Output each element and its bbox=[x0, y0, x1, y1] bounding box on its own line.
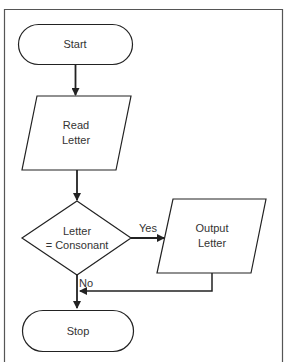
start-label: Start bbox=[25, 37, 125, 51]
no-label: No bbox=[79, 276, 97, 290]
decision-label-line1: Letter bbox=[27, 224, 127, 238]
read-label-line1: Read bbox=[26, 118, 126, 132]
yes-label: Yes bbox=[135, 221, 161, 235]
read-label-line2: Letter bbox=[26, 133, 126, 147]
edge-output-merge bbox=[80, 273, 212, 291]
output-label-line2: Letter bbox=[162, 236, 262, 250]
decision-label-line2: = Consonant bbox=[27, 238, 127, 252]
output-label-line1: Output bbox=[162, 221, 262, 235]
flowchart-canvas bbox=[0, 0, 286, 362]
stop-label: Stop bbox=[28, 324, 128, 338]
